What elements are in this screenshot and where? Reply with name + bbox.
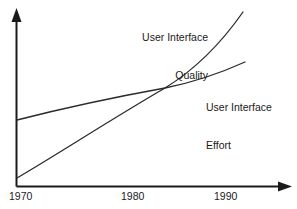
series-annotation-effort-line1: User Interface bbox=[206, 101, 296, 114]
x-axis-tick-label-1980: 1980 bbox=[121, 190, 144, 202]
x-axis-arrowhead-icon bbox=[278, 182, 292, 192]
series-annotation-effort-line2: Effort bbox=[206, 139, 296, 152]
chart-screenshot: User Interface Quality User Interface Ef… bbox=[0, 0, 297, 209]
y-axis-arrowhead-icon bbox=[12, 8, 22, 22]
series-annotation-user-interface-effort: User Interface Effort bbox=[206, 76, 296, 176]
series-annotation-quality-line2: Quality bbox=[118, 69, 208, 82]
x-axis-tick-label-1970: 1970 bbox=[9, 190, 32, 202]
series-annotation-user-interface-quality: User Interface Quality bbox=[118, 6, 208, 106]
series-annotation-quality-line1: User Interface bbox=[118, 31, 208, 44]
x-axis-tick-label-1990: 1990 bbox=[214, 190, 237, 202]
